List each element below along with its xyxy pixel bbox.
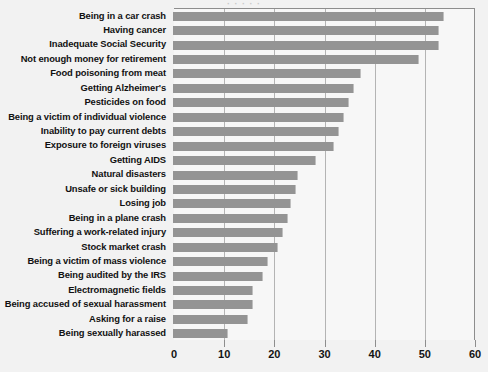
category-label-row: Having cancer [0, 22, 170, 36]
bar[interactable] [173, 286, 253, 295]
category-label-row: Food poisoning from meat [0, 66, 170, 80]
bar[interactable] [173, 156, 316, 165]
category-label-row: Being sexually harassed [0, 326, 170, 340]
bar[interactable] [173, 41, 439, 50]
category-label: Food poisoning from meat [50, 68, 166, 77]
bar-row[interactable] [174, 312, 475, 326]
bar-row[interactable] [174, 182, 475, 196]
category-label: Getting Alzheimer's [81, 83, 166, 92]
bar[interactable] [173, 171, 298, 180]
category-label: Electromagnetic fields [68, 285, 166, 294]
bar[interactable] [173, 98, 349, 107]
bar[interactable] [173, 55, 419, 64]
category-label: Being a victim of individual violence [8, 112, 166, 121]
category-label: Being sexually harassed [59, 328, 166, 337]
category-label: Exposure to foreign viruses [45, 140, 166, 149]
category-label-row: Being in a plane crash [0, 210, 170, 224]
category-label-row: Getting Alzheimer's [0, 80, 170, 94]
category-label: Inadequate Social Security [49, 39, 166, 48]
bar-row[interactable] [174, 125, 475, 139]
bar[interactable] [173, 329, 228, 338]
axis-tick-label: 10 [218, 348, 230, 360]
bar[interactable] [173, 84, 354, 93]
category-label-row: Inability to pay current debts [0, 124, 170, 138]
axis-tick-label: 40 [369, 348, 381, 360]
axis-tick-label: 20 [268, 348, 280, 360]
category-axis-labels: Being in a car crashHaving cancerInadequ… [0, 8, 170, 340]
bar-row[interactable] [174, 153, 475, 167]
bar-row[interactable] [174, 226, 475, 240]
bar[interactable] [173, 257, 268, 266]
category-label: Pesticides on food [84, 97, 166, 106]
bar-row[interactable] [174, 254, 475, 268]
category-label-row: Not enough money for retirement [0, 51, 170, 65]
category-label: Stock market crash [81, 242, 166, 251]
bar-row[interactable] [174, 283, 475, 297]
bar[interactable] [173, 228, 283, 237]
category-label: Natural disasters [92, 169, 166, 178]
bar-row[interactable] [174, 52, 475, 66]
bar-row[interactable] [174, 110, 475, 124]
plot-area [174, 8, 475, 340]
bar[interactable] [173, 113, 344, 122]
category-label: Losing job [120, 198, 166, 207]
category-label: Being in a car crash [79, 11, 166, 20]
category-label: Unsafe or sick building [65, 184, 166, 193]
category-label-row: Losing job [0, 196, 170, 210]
bar[interactable] [173, 185, 296, 194]
bar-row[interactable] [174, 327, 475, 341]
category-label: Being in a plane crash [69, 213, 166, 222]
bar[interactable] [173, 199, 291, 208]
bar-row[interactable] [174, 211, 475, 225]
bar-row[interactable] [174, 298, 475, 312]
bar-row[interactable] [174, 96, 475, 110]
category-label: Getting AIDS [110, 155, 166, 164]
bar-series [174, 9, 475, 341]
bar[interactable] [173, 243, 278, 252]
bar[interactable] [173, 127, 339, 136]
category-label: Not enough money for retirement [21, 54, 166, 63]
bar[interactable] [173, 12, 444, 21]
bar-row[interactable] [174, 269, 475, 283]
axis-tick-mark [375, 340, 376, 347]
axis-tick-mark [475, 340, 476, 347]
chart-title-cropped: · · · · · [0, 0, 488, 5]
bar-row[interactable] [174, 139, 475, 153]
bar[interactable] [173, 142, 334, 151]
axis-tick-label: 30 [318, 348, 330, 360]
category-label-row: Exposure to foreign viruses [0, 138, 170, 152]
axis-tick-mark [224, 340, 225, 347]
bar-row[interactable] [174, 240, 475, 254]
bar-row[interactable] [174, 168, 475, 182]
bar-row[interactable] [174, 197, 475, 211]
category-label-row: Being audited by the IRS [0, 268, 170, 282]
category-label-row: Stock market crash [0, 239, 170, 253]
bar-row[interactable] [174, 9, 475, 23]
category-label: Asking for a raise [89, 314, 166, 323]
category-label-row: Being a victim of mass violence [0, 253, 170, 267]
bar-row[interactable] [174, 23, 475, 37]
bar[interactable] [173, 214, 288, 223]
bar[interactable] [173, 26, 439, 35]
bar[interactable] [173, 69, 361, 78]
bar[interactable] [173, 300, 253, 309]
bar[interactable] [173, 315, 248, 324]
category-label-row: Natural disasters [0, 167, 170, 181]
bar-row[interactable] [174, 81, 475, 95]
category-label-row: Being in a car crash [0, 8, 170, 22]
bar-row[interactable] [174, 67, 475, 81]
category-label-row: Being a victim of individual violence [0, 109, 170, 123]
category-label-row: Being accused of sexual harassment [0, 297, 170, 311]
category-label: Being audited by the IRS [58, 270, 166, 279]
category-label: Being a victim of mass violence [27, 256, 166, 265]
axis-tick-mark [425, 340, 426, 347]
value-axis: 0102030405060 [174, 340, 475, 372]
category-label-row: Getting AIDS [0, 152, 170, 166]
axis-tick-label: 0 [171, 348, 177, 360]
category-label-row: Pesticides on food [0, 95, 170, 109]
axis-tick-label: 50 [419, 348, 431, 360]
bar[interactable] [173, 272, 263, 281]
category-label: Inability to pay current debts [41, 126, 166, 135]
category-label-row: Asking for a raise [0, 311, 170, 325]
bar-row[interactable] [174, 38, 475, 52]
